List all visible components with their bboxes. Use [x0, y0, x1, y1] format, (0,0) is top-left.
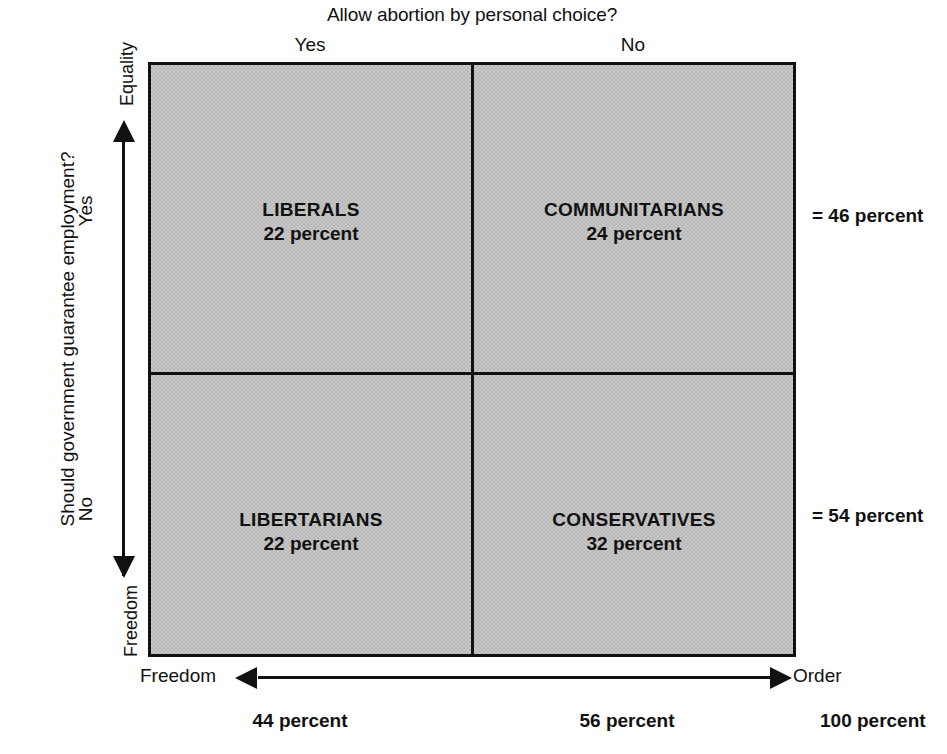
quadrant-value: 22 percent	[263, 224, 358, 245]
quadrant-label: LIBERTARIANS	[239, 510, 383, 531]
horizontal-axis-right-label: Order	[793, 665, 842, 687]
arrow-left-icon	[235, 667, 257, 689]
ideology-matrix-figure: { "top": { "question": "Allow abortion b…	[0, 0, 947, 754]
row-label-yes: Yes	[75, 181, 97, 241]
quadrant-label: CONSERVATIVES	[552, 510, 715, 531]
vertical-axis-line	[122, 134, 125, 576]
quadrant-conservatives: CONSERVATIVES 32 percent	[474, 375, 794, 681]
arrow-down-icon	[113, 556, 135, 578]
arrow-right-icon	[770, 667, 792, 689]
column-total-left: 44 percent	[210, 710, 390, 732]
row-total-bottom: = 54 percent	[812, 505, 923, 527]
top-axis-question: Allow abortion by personal choice?	[148, 4, 796, 26]
quadrant-libertarians: LIBERTARIANS 22 percent	[151, 375, 471, 681]
column-label-yes: Yes	[250, 34, 370, 56]
column-total-right: 56 percent	[537, 710, 717, 732]
horizontal-axis: Freedom Order	[148, 663, 808, 693]
quadrant-liberals: LIBERALS 22 percent	[151, 65, 471, 371]
column-label-no: No	[573, 34, 693, 56]
quadrant-value: 32 percent	[586, 534, 681, 555]
quadrant-communitarians: COMMUNITARIANS 24 percent	[474, 65, 794, 371]
horizontal-axis-left-label: Freedom	[140, 665, 216, 687]
quadrant-value: 24 percent	[586, 224, 681, 245]
quadrant-label: LIBERALS	[262, 200, 359, 221]
quadrant-matrix: LIBERALS 22 percent COMMUNITARIANS 24 pe…	[148, 62, 796, 657]
vertical-axis: Equality Freedom	[104, 62, 144, 657]
grand-total: 100 percent	[820, 710, 947, 732]
row-total-top: = 46 percent	[812, 205, 923, 227]
horizontal-axis-line	[258, 676, 776, 679]
row-label-no: No	[75, 479, 97, 539]
quadrant-value: 22 percent	[263, 534, 358, 555]
quadrant-label: COMMUNITARIANS	[544, 200, 724, 221]
